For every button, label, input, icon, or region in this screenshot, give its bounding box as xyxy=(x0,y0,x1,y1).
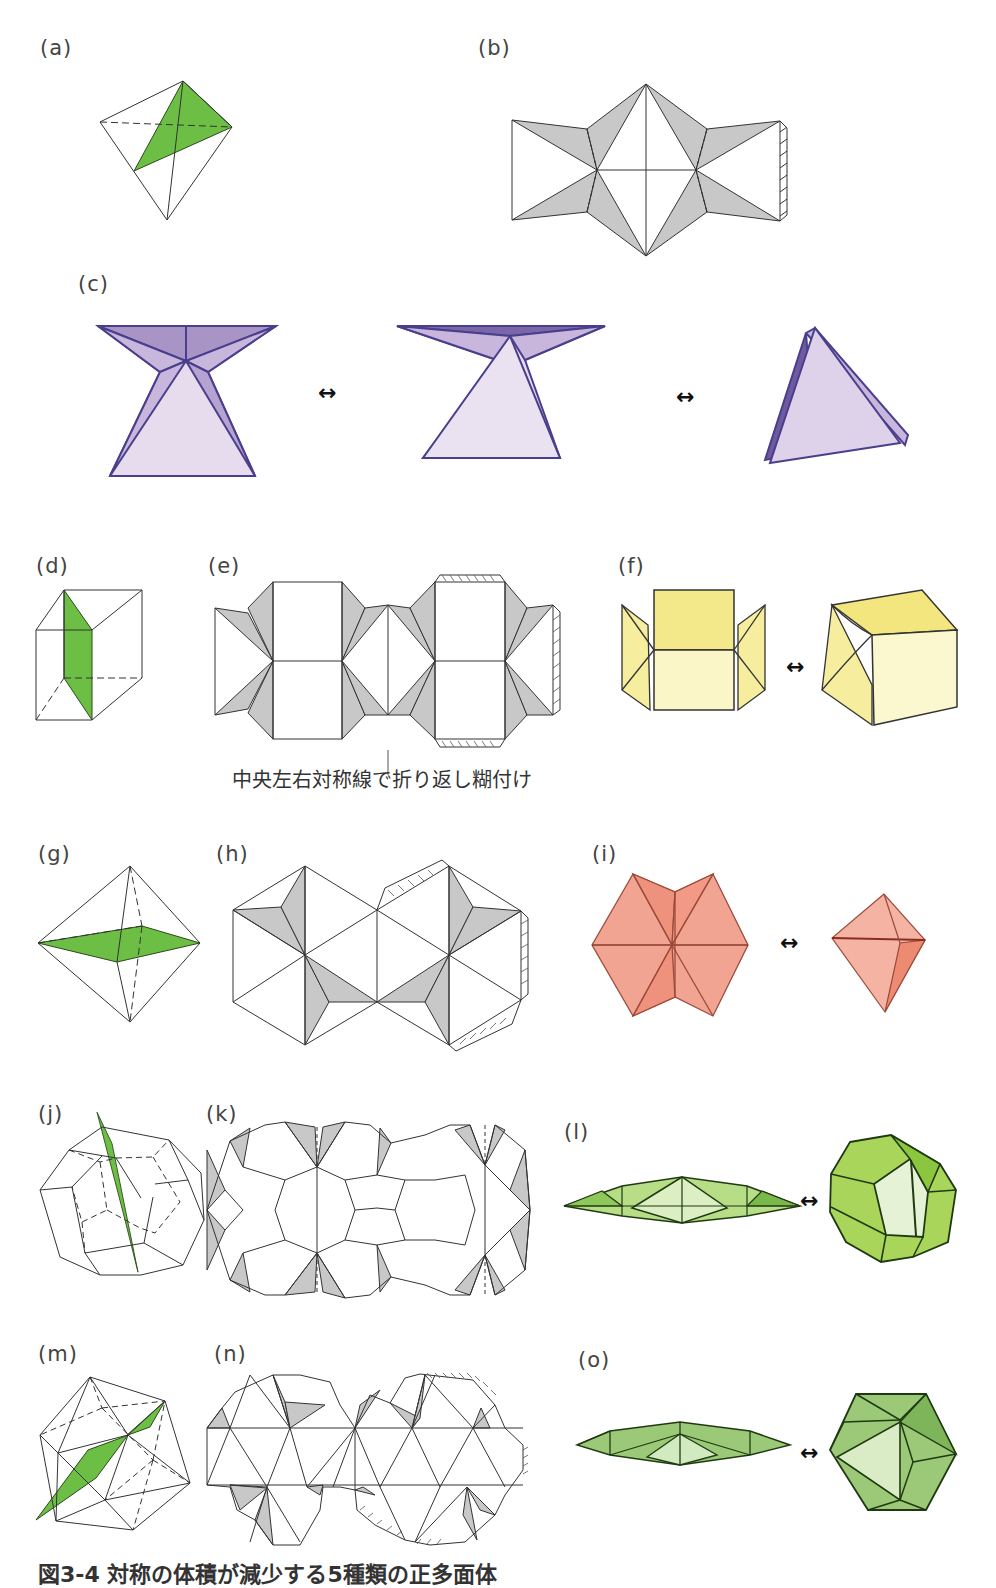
icosahedron-fold-model-1 xyxy=(575,1420,795,1480)
tetrahedron-fold-model-1 xyxy=(80,320,280,480)
label-f: (f) xyxy=(618,554,645,578)
label-n: (n) xyxy=(214,1342,247,1366)
transform-arrow-icon: ↔ xyxy=(676,384,694,409)
cube-fold-model-1 xyxy=(620,585,770,725)
dodecahedron-fold-model-1 xyxy=(562,1170,802,1230)
octahedron-fold-model-2 xyxy=(830,890,930,1015)
transform-arrow-icon: ↔ xyxy=(800,1188,818,1213)
label-l: (l) xyxy=(564,1120,589,1144)
dodecahedron-section-figure xyxy=(20,1060,200,1280)
transform-arrow-icon: ↔ xyxy=(318,380,336,405)
icosahedron-net-figure xyxy=(205,1370,545,1550)
dodecahedron-fold-model-2 xyxy=(828,1132,958,1267)
fold-annotation: 中央左右対称線で折り返し糊付け xyxy=(232,764,532,793)
cube-net-figure xyxy=(200,575,600,755)
tetrahedron-net-figure xyxy=(480,60,820,270)
cube-fold-model-2 xyxy=(822,585,962,730)
octahedron-net-figure xyxy=(220,860,560,1060)
tetrahedron-section-figure xyxy=(0,0,300,280)
transform-arrow-icon: ↔ xyxy=(786,654,804,679)
tetrahedron-fold-model-2 xyxy=(395,320,610,470)
transform-arrow-icon: ↔ xyxy=(780,930,798,955)
icosahedron-fold-model-2 xyxy=(828,1392,963,1512)
octahedron-fold-model-1 xyxy=(590,870,750,1020)
octahedron-section-figure xyxy=(20,800,200,1030)
figure-caption: 図3-4 対称の体積が減少する5種類の正多面体 xyxy=(38,1556,497,1588)
icosahedron-section-figure xyxy=(20,1330,200,1540)
label-o: (o) xyxy=(578,1348,610,1372)
transform-arrow-icon: ↔ xyxy=(800,1440,818,1465)
label-b: (b) xyxy=(478,36,511,60)
cube-section-figure xyxy=(20,550,200,730)
dodecahedron-net-figure xyxy=(205,1120,535,1300)
tetrahedron-fold-model-3 xyxy=(750,325,920,470)
label-i: (i) xyxy=(592,842,617,866)
